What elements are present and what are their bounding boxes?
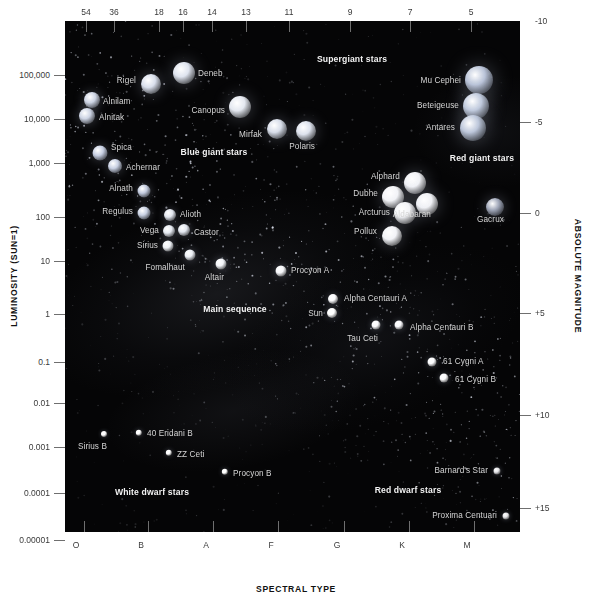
- tick-left: [54, 75, 65, 76]
- tick-right: [520, 213, 531, 214]
- axis-tick-label-absolute-magnitude: +15: [535, 503, 549, 513]
- star-marker: [395, 321, 404, 330]
- star-label: Aldabaran: [393, 210, 431, 219]
- axis-tick-label-spectral-type: K: [399, 540, 405, 550]
- axis-tick-label-spectral-type: G: [334, 540, 341, 550]
- axis-tick-label-spectral-type: F: [268, 540, 273, 550]
- star-marker: [372, 321, 381, 330]
- tick-left: [54, 540, 65, 541]
- axis-tick-label-spectral-type: B: [138, 540, 144, 550]
- star-marker: [486, 198, 504, 216]
- star-label: Dubhe: [353, 189, 378, 198]
- star-label: Regulus: [102, 207, 133, 216]
- axis-tick-label-temperature: 16: [178, 7, 187, 17]
- star-label: Alphard: [371, 172, 400, 181]
- tick-top: [410, 21, 411, 32]
- region-label: Blue giant stars: [181, 147, 248, 157]
- star-marker: [164, 209, 176, 221]
- star-marker: [465, 66, 493, 94]
- star-label: Fomalhaut: [145, 263, 185, 272]
- star-label: Sirius B: [78, 442, 107, 451]
- star-label: Sirius: [137, 241, 158, 250]
- star-marker: [276, 266, 287, 277]
- star-label: Deneb: [198, 69, 223, 78]
- tick-left: [54, 314, 65, 315]
- star-marker: [141, 74, 161, 94]
- star-marker: [163, 241, 174, 252]
- star-label: 40 Eridani B: [147, 429, 193, 438]
- tick-left: [54, 217, 65, 218]
- star-label: Alnitak: [99, 113, 124, 122]
- star-label: Canopus: [192, 106, 225, 115]
- star-label: Proxima Centuari: [432, 511, 497, 520]
- tick-left: [54, 447, 65, 448]
- star-marker: [296, 121, 316, 141]
- axis-tick-label-temperature: 5: [469, 7, 474, 17]
- axis-tick-label-temperature: 9: [348, 7, 353, 17]
- star-label: Alnilam: [103, 97, 131, 106]
- axis-tick-label-temperature: 7: [408, 7, 413, 17]
- star-label: Pollux: [354, 227, 377, 236]
- axis-tick-label-luminosity: 0.0001: [24, 488, 50, 498]
- axis-tick-label-absolute-magnitude: -5: [535, 117, 543, 127]
- tick-top: [212, 21, 213, 32]
- region-label: White dwarf stars: [115, 487, 189, 497]
- star-label: Polaris: [289, 142, 315, 151]
- tick-right: [520, 508, 531, 509]
- star-marker: [229, 96, 251, 118]
- star-marker: [328, 294, 338, 304]
- star-marker: [108, 159, 122, 173]
- axis-tick-label-luminosity: 0.01: [33, 398, 50, 408]
- star-label: Antares: [426, 123, 455, 132]
- star-marker: [163, 225, 175, 237]
- tick-bottom: [84, 521, 85, 532]
- axis-tick-label-temperature: 14: [207, 7, 216, 17]
- tick-bottom: [278, 521, 279, 532]
- star-label: Rigel: [117, 76, 136, 85]
- axis-title-spectral-type: SPECTRAL TYPE: [0, 584, 592, 594]
- tick-bottom: [148, 521, 149, 532]
- star-label: Castor: [194, 228, 219, 237]
- tick-bottom: [409, 521, 410, 532]
- star-label: 61 Cygni B: [455, 375, 496, 384]
- axis-tick-label-spectral-type: A: [203, 540, 209, 550]
- hr-diagram: DenebRigelAlnilamAlnitakCanopusMirfakPol…: [0, 0, 592, 605]
- star-label: Alpha Centauri B: [410, 323, 474, 332]
- axis-tick-label-luminosity: 10,000: [24, 114, 50, 124]
- star-marker: [404, 172, 426, 194]
- star-label: Vega: [140, 226, 159, 235]
- tick-left: [54, 119, 65, 120]
- star-marker: [173, 62, 195, 84]
- star-marker: [428, 358, 437, 367]
- axis-title-absolute-magnitude: ABSOLUTE MAGNITUDE: [573, 186, 583, 366]
- star-label: Alioth: [180, 210, 201, 219]
- star-label: Barnard's Star: [435, 466, 488, 475]
- axis-title-luminosity: LUMINOSITY (SUN=1): [9, 196, 19, 356]
- region-label: Red giant stars: [450, 153, 514, 163]
- star-marker: [382, 226, 402, 246]
- star-label: Altair: [205, 273, 224, 282]
- tick-left: [54, 163, 65, 164]
- star-label: Mirfak: [239, 130, 262, 139]
- axis-tick-label-absolute-magnitude: +10: [535, 410, 549, 420]
- star-label: Gacrux: [477, 215, 504, 224]
- tick-right: [520, 415, 531, 416]
- star-label: Arcturus: [359, 208, 390, 217]
- star-marker: [216, 259, 227, 270]
- tick-bottom: [213, 521, 214, 532]
- star-marker: [185, 250, 196, 261]
- star-marker: [503, 513, 510, 520]
- tick-left: [54, 261, 65, 262]
- axis-tick-label-luminosity: 0.00001: [19, 535, 50, 545]
- star-marker: [84, 92, 100, 108]
- tick-right: [520, 122, 531, 123]
- star-label: Spica: [111, 143, 132, 152]
- star-marker: [93, 146, 108, 161]
- tick-right: [520, 313, 531, 314]
- tick-top: [289, 21, 290, 32]
- axis-tick-label-luminosity: 100,000: [19, 70, 50, 80]
- tick-left: [54, 403, 65, 404]
- star-label: Beteigeuse: [417, 101, 459, 110]
- star-label: Sun: [308, 309, 323, 318]
- axis-tick-label-temperature: 18: [154, 7, 163, 17]
